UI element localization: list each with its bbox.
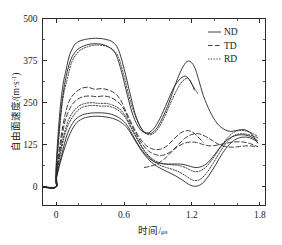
- x-tick-label: 0.6: [118, 210, 130, 220]
- x-axis-title: 时间/μs: [138, 225, 167, 236]
- x-tick-label: 1.8: [254, 210, 266, 220]
- series-curve: [144, 134, 257, 168]
- legend-label-rd: RD: [224, 54, 237, 64]
- x-tick-label: 1.2: [186, 210, 198, 220]
- y-tick-label: 250: [23, 98, 38, 108]
- series-curve: [43, 103, 258, 188]
- chart-svg: 0125250375500 00.61.21.8 时间/μs 自由面速度/(m·…: [0, 0, 282, 245]
- y-axis-title-text: 自由面速度/(m: [10, 88, 22, 152]
- legend-label-td: TD: [224, 41, 237, 51]
- y-axis-title: 自由面速度/(m·s-1): [10, 73, 22, 152]
- y-tick-label: 125: [23, 140, 38, 150]
- legend-label-nd: ND: [224, 27, 238, 37]
- x-axis-unit-text: μs: [161, 228, 168, 236]
- y-axis-title-close: ): [11, 73, 22, 76]
- svg-text:自由面速度/(m·s-1): 自由面速度/(m·s-1): [10, 73, 22, 152]
- legend: NDTDRD: [208, 27, 238, 64]
- y-tick-label: 500: [23, 14, 38, 24]
- svg-text:时间/μs: 时间/μs: [138, 225, 167, 236]
- series-curve: [43, 113, 258, 188]
- x-tick-label: 0: [54, 210, 59, 220]
- y-tick-label: 375: [23, 56, 38, 66]
- free-surface-velocity-chart: 0125250375500 00.61.21.8 时间/μs 自由面速度/(m·…: [0, 0, 282, 245]
- y-tick-label: 0: [33, 182, 38, 192]
- x-axis-title-text: 时间/: [138, 225, 161, 236]
